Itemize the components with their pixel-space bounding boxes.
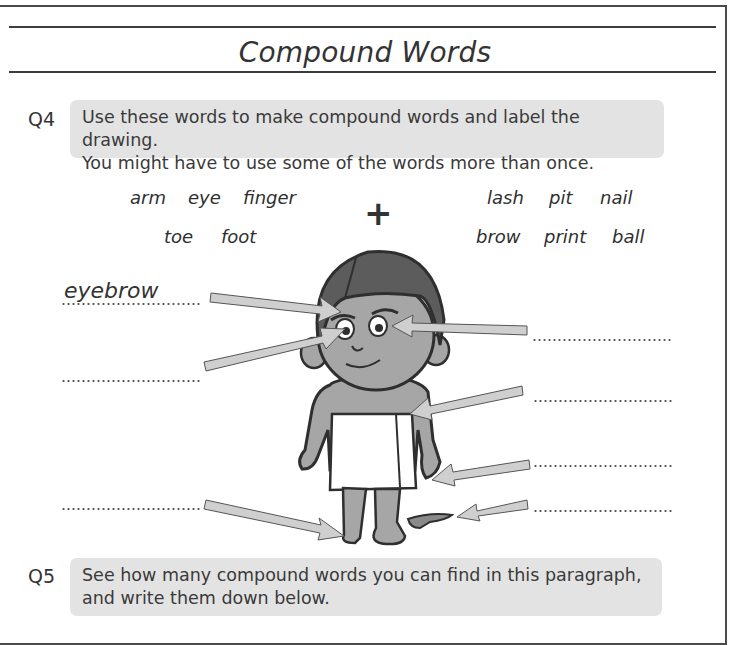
- left-leg: [343, 488, 366, 543]
- arrow-toe: [204, 500, 344, 540]
- q5-instruction-line1: See how many compound words you can find…: [82, 564, 650, 587]
- arrow-fingernail: [432, 460, 530, 486]
- arrow-eyelash: [392, 315, 527, 337]
- answer-line-right-2[interactable]: [533, 400, 673, 402]
- answer-line-left-3[interactable]: [61, 508, 201, 510]
- answer-line-right-3[interactable]: [533, 465, 673, 467]
- q5-instruction-line2: and write them down below.: [82, 587, 650, 610]
- answer-line-right-1[interactable]: [532, 339, 672, 341]
- arrow-eyebrow: [210, 293, 341, 322]
- right-leg: [374, 489, 405, 544]
- question-number-q5: Q5: [28, 565, 55, 587]
- arrow-football: [457, 500, 528, 521]
- answer-line-left-2[interactable]: [61, 380, 201, 382]
- answer-eyebrow[interactable]: eyebrow: [64, 278, 159, 303]
- answer-line-right-4[interactable]: [533, 510, 673, 512]
- answer-line-left-1[interactable]: [61, 303, 201, 305]
- towel: [330, 414, 416, 490]
- toy: [408, 514, 452, 528]
- right-eye: [375, 324, 383, 332]
- question-box-q5: See how many compound words you can find…: [70, 558, 662, 616]
